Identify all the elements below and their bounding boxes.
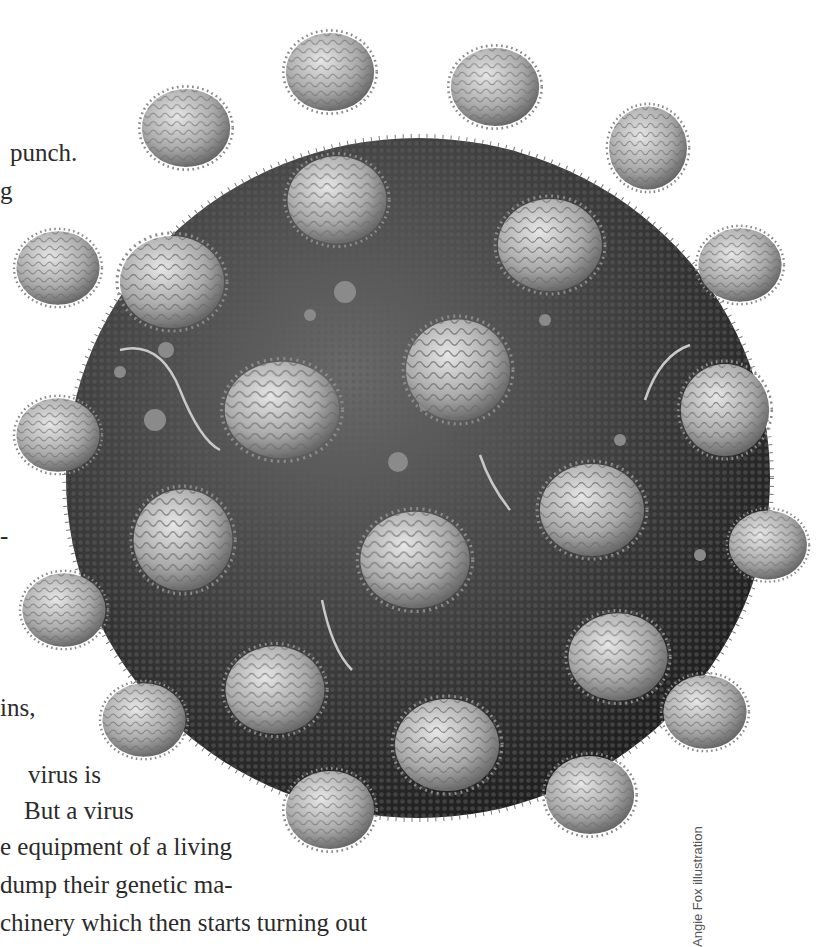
text-line: g	[0, 176, 13, 206]
text-line: chinery which then starts turning out	[0, 908, 367, 938]
text-line: virus is	[28, 760, 101, 790]
text-line: punch.	[10, 138, 77, 168]
text-line: e equipment of a living	[0, 832, 232, 862]
text-line: -	[0, 521, 8, 551]
text-line: dump their genetic ma-	[0, 870, 233, 900]
illustration-credit: Angie Fox illustration	[690, 826, 705, 947]
text-line: ins,	[0, 693, 35, 723]
text-line: But a virus	[24, 796, 134, 826]
